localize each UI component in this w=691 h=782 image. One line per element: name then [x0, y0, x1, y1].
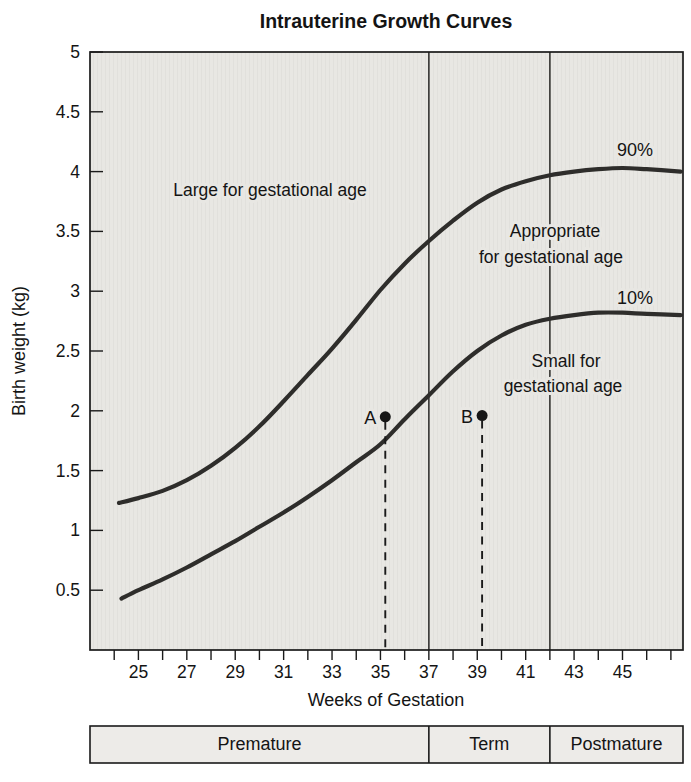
y-axis-label: Birth weight (kg)	[9, 286, 29, 416]
x-axis-label: Weeks of Gestation	[308, 690, 465, 710]
x-tick-label: 37	[419, 662, 438, 682]
y-tick-label: 1.5	[56, 461, 80, 481]
y-tick-label: 1	[70, 520, 80, 540]
percentile-10-label: 10%	[617, 288, 653, 308]
y-tick-label: 4	[70, 162, 80, 182]
region-label-appropriate-line1: Appropriate	[510, 221, 600, 241]
x-tick-labels: 2527293133353739414345	[129, 662, 633, 682]
maturity-zone-label-postmature: Postmature	[570, 734, 662, 754]
region-label-large: Large for gestational age	[173, 180, 367, 200]
region-label-small-line2: gestational age	[504, 376, 623, 396]
region-label-small-line1: Small for	[531, 351, 600, 371]
growth-chart-canvas: Intrauterine Growth Curves AB Large for …	[0, 0, 691, 782]
y-tick-label: 0.5	[56, 580, 80, 600]
y-tick-label: 3	[70, 281, 80, 301]
x-tick-label: 33	[322, 662, 341, 682]
x-tick-label: 25	[129, 662, 148, 682]
y-tick-label: 5	[70, 42, 80, 62]
y-tick-label: 3.5	[56, 221, 80, 241]
growth-chart-figure: Intrauterine Growth Curves AB Large for …	[0, 0, 691, 782]
maturity-zone-label-term: Term	[469, 734, 509, 754]
x-tick-label: 35	[371, 662, 390, 682]
x-tick-label: 29	[225, 662, 244, 682]
region-label-appropriate-line2: for gestational age	[479, 247, 623, 267]
x-tick-label: 41	[516, 662, 535, 682]
point-a-marker	[380, 411, 391, 422]
y-tick-labels: 54.543.532.521.510.5	[56, 42, 81, 600]
x-axis-ticks	[114, 650, 671, 660]
x-tick-label: 27	[177, 662, 196, 682]
point-b-marker	[477, 410, 488, 421]
x-tick-label: 39	[468, 662, 487, 682]
y-tick-label: 2.5	[56, 341, 80, 361]
y-tick-label: 4.5	[56, 102, 80, 122]
figure-title: Intrauterine Growth Curves	[260, 10, 513, 32]
point-b-label: B	[461, 407, 473, 427]
maturity-zone-label-premature: Premature	[217, 734, 301, 754]
x-tick-label: 31	[274, 662, 293, 682]
percentile-90-label: 90%	[617, 140, 653, 160]
x-tick-label: 45	[613, 662, 632, 682]
x-tick-label: 43	[564, 662, 583, 682]
y-tick-label: 2	[70, 401, 80, 421]
point-a-label: A	[364, 408, 376, 428]
